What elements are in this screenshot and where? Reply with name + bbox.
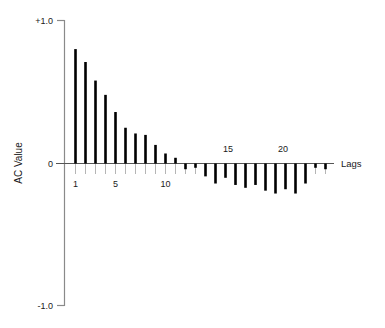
acf-chart: +1.0 0 -1.0 AC Value Lags (0, 0, 385, 328)
y-tick-label-top: +1.0 (35, 16, 53, 26)
y-tick-label-bottom: -1.0 (37, 301, 53, 311)
x-tick-label-20: 20 (278, 144, 288, 154)
x-tick-label-5: 5 (113, 179, 118, 189)
x-tick-label-15: 15 (223, 144, 233, 154)
chart-canvas: +1.0 0 -1.0 AC Value Lags (0, 0, 385, 328)
x-tick-label-10: 10 (160, 179, 170, 189)
x-tick-label-1: 1 (73, 179, 78, 189)
y-axis-title: AC Value (13, 142, 24, 184)
x-axis-title: Lags (341, 158, 362, 169)
lag-tick-marks (76, 164, 326, 174)
y-tick-label-zero: 0 (48, 159, 53, 169)
acf-bars (76, 49, 326, 193)
